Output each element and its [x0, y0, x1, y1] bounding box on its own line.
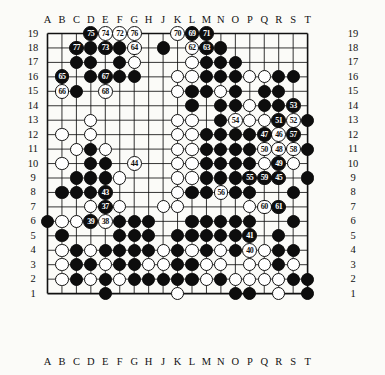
move-63[interactable]: 63 [199, 41, 214, 56]
black-stone[interactable] [200, 157, 213, 170]
black-stone[interactable] [229, 244, 242, 257]
black-stone[interactable] [70, 186, 83, 199]
black-stone[interactable] [229, 85, 242, 98]
white-stone[interactable] [185, 244, 198, 257]
black-stone[interactable] [185, 85, 198, 98]
move-50[interactable]: 50 [257, 142, 272, 157]
black-stone[interactable] [84, 171, 97, 184]
black-stone[interactable] [128, 215, 141, 228]
black-stone[interactable] [185, 229, 198, 242]
black-stone[interactable] [301, 171, 314, 184]
black-stone[interactable] [185, 99, 198, 112]
black-stone[interactable] [214, 171, 227, 184]
black-stone[interactable] [99, 171, 112, 184]
move-39[interactable]: 39 [83, 214, 98, 229]
move-43[interactable]: 43 [98, 185, 113, 200]
move-38[interactable]: 38 [98, 214, 113, 229]
black-stone[interactable] [200, 215, 213, 228]
white-stone[interactable] [55, 273, 68, 286]
black-stone[interactable] [258, 85, 271, 98]
white-stone[interactable] [171, 186, 184, 199]
black-stone[interactable] [243, 143, 256, 156]
black-stone[interactable] [171, 273, 184, 286]
move-40[interactable]: 40 [242, 243, 257, 258]
move-57[interactable]: 57 [286, 127, 301, 142]
white-stone[interactable] [185, 56, 198, 69]
black-stone[interactable] [84, 143, 97, 156]
white-stone[interactable] [258, 244, 271, 257]
white-stone[interactable] [113, 171, 126, 184]
move-54[interactable]: 54 [228, 113, 243, 128]
black-stone[interactable] [200, 171, 213, 184]
white-stone[interactable] [171, 171, 184, 184]
black-stone[interactable] [55, 229, 68, 242]
black-stone[interactable] [200, 85, 213, 98]
black-stone[interactable] [55, 186, 68, 199]
black-stone[interactable] [99, 157, 112, 170]
move-71[interactable]: 71 [199, 26, 214, 41]
black-stone[interactable] [70, 244, 83, 257]
move-56[interactable]: 56 [214, 185, 229, 200]
black-stone[interactable] [229, 56, 242, 69]
black-stone[interactable] [200, 56, 213, 69]
white-stone[interactable] [185, 128, 198, 141]
black-stone[interactable] [214, 41, 227, 54]
black-stone[interactable] [70, 85, 83, 98]
white-stone[interactable] [55, 244, 68, 257]
white-stone[interactable] [258, 258, 271, 271]
black-stone[interactable] [287, 186, 300, 199]
black-stone[interactable] [287, 215, 300, 228]
white-stone[interactable] [157, 258, 170, 271]
white-stone[interactable] [55, 157, 68, 170]
white-stone[interactable] [171, 85, 184, 98]
move-53[interactable]: 53 [286, 98, 301, 113]
black-stone[interactable] [99, 273, 112, 286]
black-stone[interactable] [128, 244, 141, 257]
black-stone[interactable] [128, 258, 141, 271]
black-stone[interactable] [200, 244, 213, 257]
move-70[interactable]: 70 [170, 26, 185, 41]
white-stone[interactable] [70, 143, 83, 156]
move-75[interactable]: 75 [83, 26, 98, 41]
black-stone[interactable] [113, 41, 126, 54]
white-stone[interactable] [171, 143, 184, 156]
black-stone[interactable] [200, 186, 213, 199]
black-stone[interactable] [229, 171, 242, 184]
black-stone[interactable] [301, 143, 314, 156]
black-stone[interactable] [171, 244, 184, 257]
move-72[interactable]: 72 [112, 26, 127, 41]
white-stone[interactable] [55, 258, 68, 271]
black-stone[interactable] [128, 273, 141, 286]
move-58[interactable]: 58 [286, 142, 301, 157]
white-stone[interactable] [55, 128, 68, 141]
black-stone[interactable] [287, 273, 300, 286]
black-stone[interactable] [301, 114, 314, 127]
black-stone[interactable] [185, 215, 198, 228]
white-stone[interactable] [243, 273, 256, 286]
black-stone[interactable] [142, 244, 155, 257]
white-stone[interactable] [272, 273, 285, 286]
white-stone[interactable] [157, 244, 170, 257]
black-stone[interactable] [99, 244, 112, 257]
black-stone[interactable] [185, 186, 198, 199]
black-stone[interactable] [142, 273, 155, 286]
move-74[interactable]: 74 [98, 26, 113, 41]
black-stone[interactable] [99, 287, 112, 300]
move-44[interactable]: 44 [127, 156, 142, 171]
move-52[interactable]: 52 [286, 113, 301, 128]
black-stone[interactable] [229, 143, 242, 156]
black-stone[interactable] [70, 273, 83, 286]
black-stone[interactable] [157, 273, 170, 286]
white-stone[interactable] [99, 143, 112, 156]
move-51[interactable]: 51 [271, 113, 286, 128]
black-stone[interactable] [70, 171, 83, 184]
white-stone[interactable] [185, 157, 198, 170]
white-stone[interactable] [70, 215, 83, 228]
black-stone[interactable] [41, 215, 54, 228]
move-68[interactable]: 68 [98, 84, 113, 99]
white-stone[interactable] [258, 114, 271, 127]
move-69[interactable]: 69 [185, 26, 200, 41]
black-stone[interactable] [229, 157, 242, 170]
black-stone[interactable] [229, 186, 242, 199]
white-stone[interactable] [185, 114, 198, 127]
